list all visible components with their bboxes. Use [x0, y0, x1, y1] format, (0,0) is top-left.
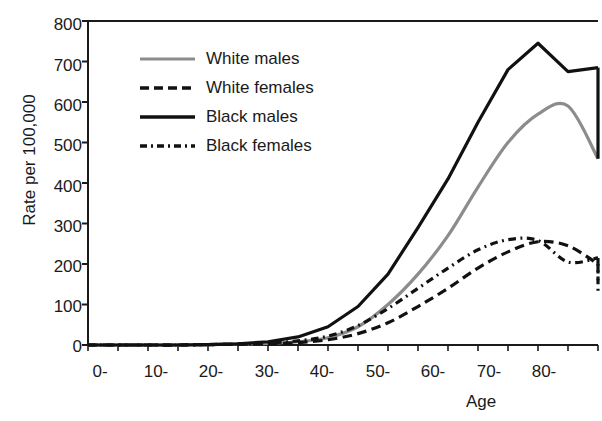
series-line-black-females: [88, 238, 598, 345]
data-series-group: [88, 43, 598, 345]
series-line-black-males: [88, 43, 598, 345]
incidence-rate-line-chart: Rate per 100,000 0 100 200 300 400 500 6…: [0, 0, 602, 421]
plot-area: [0, 0, 602, 421]
series-line-white-males: [88, 103, 598, 345]
series-line-white-females: [88, 241, 598, 345]
